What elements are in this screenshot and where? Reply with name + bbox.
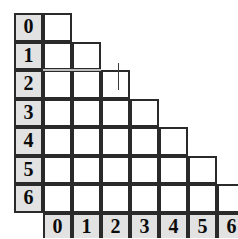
grid-cell-r5-c0[interactable] (43, 156, 72, 185)
grid-cell-r5-c5[interactable] (188, 156, 217, 185)
grid-cell-r6-c2[interactable] (101, 184, 130, 213)
col-header-label: 1 (82, 216, 92, 236)
grid-cell-r6-c6[interactable] (217, 184, 238, 213)
col-header-2[interactable]: 2 (101, 213, 130, 239)
col-header-3[interactable]: 3 (130, 213, 159, 239)
col-header-6[interactable]: 6 (217, 213, 238, 239)
col-header-label: 4 (169, 216, 179, 236)
grid-cell-r6-c4[interactable] (159, 184, 188, 213)
col-header-label: 3 (140, 216, 150, 236)
grid-cell-r6-c3[interactable] (130, 184, 159, 213)
grid-cell-r3-c2[interactable] (101, 99, 130, 128)
grid-cell-r2-c1[interactable] (72, 70, 101, 99)
grid-cell-r6-c5[interactable] (188, 184, 217, 213)
row-header-label: 3 (24, 102, 34, 122)
grid-cell-r1-c1[interactable] (72, 42, 101, 71)
tick-mark (118, 63, 119, 90)
grid-cell-r6-c1[interactable] (72, 184, 101, 213)
grid-cell-r2-c0[interactable] (43, 70, 72, 99)
row-header-1[interactable]: 1 (14, 42, 43, 71)
col-header-label: 2 (111, 216, 121, 236)
grid-cell-r3-c0[interactable] (43, 99, 72, 128)
grid-cell-r4-c4[interactable] (159, 127, 188, 156)
col-header-label: 0 (53, 216, 63, 236)
grid-cell-r4-c3[interactable] (130, 127, 159, 156)
triangular-grid-figure: 01234560123456 (0, 0, 238, 238)
col-header-1[interactable]: 1 (72, 213, 101, 239)
row-header-label: 2 (24, 73, 34, 93)
grid-cell-r4-c1[interactable] (72, 127, 101, 156)
col-header-5[interactable]: 5 (188, 213, 217, 239)
row-header-label: 5 (24, 159, 34, 179)
row-header-label: 4 (24, 130, 34, 150)
row-header-4[interactable]: 4 (14, 127, 43, 156)
row-header-2[interactable]: 2 (14, 70, 43, 99)
row-header-label: 1 (24, 45, 34, 65)
grid-cell-r1-c0[interactable] (43, 42, 72, 71)
col-header-label: 6 (227, 216, 237, 236)
grid-cell-r5-c1[interactable] (72, 156, 101, 185)
col-header-label: 5 (198, 216, 208, 236)
row-header-5[interactable]: 5 (14, 156, 43, 185)
grid-cell-r5-c2[interactable] (101, 156, 130, 185)
row-header-label: 0 (24, 16, 34, 36)
row-header-label: 6 (24, 187, 34, 207)
grid-cell-r3-c3[interactable] (130, 99, 159, 128)
grid-cell-r4-c2[interactable] (101, 127, 130, 156)
grid-cell-r5-c4[interactable] (159, 156, 188, 185)
row-header-6[interactable]: 6 (14, 184, 43, 213)
grid-cell-r6-c0[interactable] (43, 184, 72, 213)
grid-cell-r2-c2[interactable] (101, 70, 130, 99)
col-header-4[interactable]: 4 (159, 213, 188, 239)
col-header-0[interactable]: 0 (43, 213, 72, 239)
grid-cell-r0-c0[interactable] (43, 13, 72, 42)
faded-row-divider (43, 69, 101, 71)
grid-cell-r4-c0[interactable] (43, 127, 72, 156)
row-header-0[interactable]: 0 (14, 13, 43, 42)
grid-cell-r3-c1[interactable] (72, 99, 101, 128)
grid-cell-r5-c3[interactable] (130, 156, 159, 185)
row-header-3[interactable]: 3 (14, 99, 43, 128)
